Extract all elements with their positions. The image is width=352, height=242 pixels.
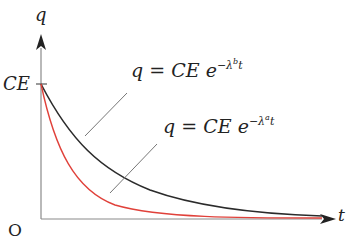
x-axis-label: t — [338, 207, 345, 224]
eq-exp-var: t — [270, 115, 274, 128]
eq-equals: = — [149, 59, 165, 81]
eq-equals: = — [181, 115, 197, 137]
leader-line-fast — [110, 144, 157, 193]
eq-exponent: −λbt — [217, 59, 243, 72]
eq-exponent: −λat — [249, 115, 274, 128]
y-tick-label-ce: CE — [3, 75, 30, 93]
eq-lhs: q — [131, 59, 143, 81]
equation-slow-decay: q = CE e−λbt — [131, 61, 243, 80]
curve-fast-decay — [41, 84, 322, 218]
eq-exp-lambda: −λ — [217, 59, 233, 72]
origin-label: O — [8, 222, 22, 239]
eq-ce: CE — [171, 59, 199, 81]
y-axis-arrow-icon — [36, 34, 46, 50]
eq-lhs: q — [163, 115, 175, 137]
eq-exp-var: t — [238, 59, 242, 72]
x-axis-arrow-icon — [320, 214, 336, 224]
eq-ce: CE — [203, 115, 231, 137]
equation-fast-decay: q = CE e−λat — [163, 117, 274, 136]
eq-e: e — [206, 59, 217, 81]
eq-exp-lambda: −λ — [249, 115, 265, 128]
leader-line-slow — [85, 93, 127, 136]
y-axis-label: q — [35, 6, 47, 24]
eq-exp-subscript: a — [265, 113, 270, 122]
eq-e: e — [238, 115, 249, 137]
eq-exp-subscript: b — [233, 57, 238, 66]
curve-slow-decay — [41, 84, 322, 216]
